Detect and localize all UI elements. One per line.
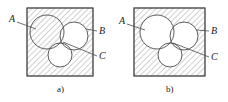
panel-a: ABCa) bbox=[8, 8, 106, 94]
panel-caption-a: a) bbox=[57, 84, 64, 94]
label-b-C: C bbox=[211, 51, 218, 62]
panel-b: ABCb) bbox=[118, 8, 218, 94]
figure-container: ABCa)ABCb) bbox=[0, 0, 228, 102]
label-a-C: C bbox=[99, 50, 106, 61]
panel-caption-b: b) bbox=[166, 84, 174, 94]
label-a-A: A bbox=[8, 13, 16, 24]
label-a-B: B bbox=[99, 25, 105, 36]
label-b-A: A bbox=[118, 15, 126, 26]
label-b-B: B bbox=[211, 25, 217, 36]
diagram-svg: ABCa)ABCb) bbox=[0, 0, 228, 102]
panels-layer: ABCa)ABCb) bbox=[8, 8, 218, 94]
